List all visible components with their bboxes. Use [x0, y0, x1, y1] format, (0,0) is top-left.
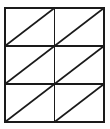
grid-diagram: [0, 0, 110, 129]
figure-root: [0, 0, 110, 129]
